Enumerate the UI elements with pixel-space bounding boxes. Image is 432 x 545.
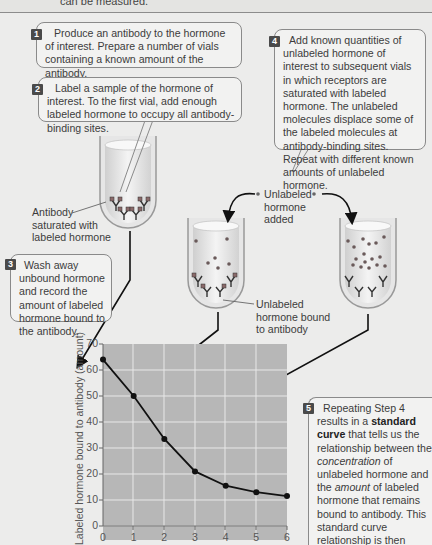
step-3-callout: Wash away unbound hormone and record the… <box>10 254 112 322</box>
step-5-callout: Repeating Step 4 results in a standard c… <box>308 397 432 545</box>
tube-more-unlabeled <box>340 218 396 308</box>
x-tick-label: 6 <box>284 531 290 543</box>
x-tick-label: 4 <box>223 531 229 543</box>
data-point <box>253 489 259 495</box>
data-point <box>192 468 198 474</box>
step-1-text: Produce an antibody to the hormone of in… <box>45 27 235 80</box>
data-point <box>131 393 137 399</box>
y-tick-label: 70 <box>86 337 98 349</box>
step-5-text: Repeating Step 4 results in a standard c… <box>317 402 432 545</box>
x-tick-label: 0 <box>100 531 106 543</box>
y-tick-label: 20 <box>86 467 98 479</box>
y-tick-label: 0 <box>92 519 98 531</box>
step-5-badge: 5 <box>303 403 314 414</box>
x-tick-label: 3 <box>192 531 198 543</box>
step-1-badge: 1 <box>31 29 42 40</box>
y-tick-label: 10 <box>86 493 98 505</box>
tube-some-unlabeled <box>188 218 244 308</box>
step-1-callout: Produce an antibody to the hormone of in… <box>36 22 242 68</box>
step-2-callout: Label a sample of the hormone of interes… <box>38 77 242 122</box>
antibody-saturated-label: Antibody saturated with labeled hormone <box>32 206 111 244</box>
data-point <box>100 357 106 363</box>
step-3-text: Wash away unbound hormone and record the… <box>19 259 105 338</box>
x-tick-label: 5 <box>253 531 259 543</box>
x-tick-label: 2 <box>161 531 167 543</box>
unlabeled-added-label: Unlabeled hormone added <box>264 188 312 226</box>
data-point <box>223 483 229 489</box>
x-tick-label: 1 <box>131 531 137 543</box>
standard-curve-chart <box>99 344 290 540</box>
y-tick-label: 50 <box>86 389 98 401</box>
step-4-badge: 4 <box>269 36 280 47</box>
y-tick-label: 40 <box>86 415 98 427</box>
step-4-text: Add known quantities of unlabeled hormon… <box>283 34 419 192</box>
unlabeled-bound-label: Unlabeled hormone bound to antibody <box>256 298 330 336</box>
data-point <box>284 493 290 499</box>
y-tick-label: 30 <box>86 441 98 453</box>
step-3-badge: 3 <box>5 259 16 270</box>
y-axis-label: Labeled hormone bound to antibody (amoun… <box>73 332 85 545</box>
step-4-callout: Add known quantities of unlabeled hormon… <box>274 29 426 150</box>
step-2-badge: 2 <box>32 84 43 95</box>
y-tick-label: 60 <box>86 363 98 375</box>
data-point <box>161 436 167 442</box>
step-2-text: Label a sample of the hormone of interes… <box>47 82 235 135</box>
